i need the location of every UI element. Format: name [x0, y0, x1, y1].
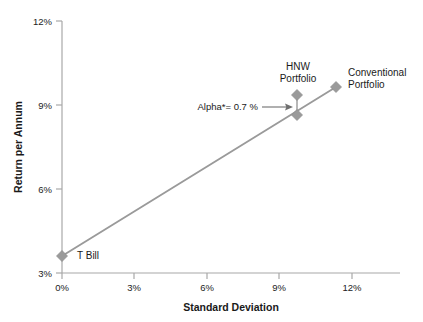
- x-tick-label-0: 0%: [55, 282, 69, 293]
- chart-svg: 12% 9% 6% 3% 0% 3% 6% 9% 12% Standard De…: [0, 0, 423, 322]
- y-axis-title: Return per Annum: [12, 101, 24, 193]
- y-tick-label-9: 9%: [38, 100, 52, 111]
- y-tick-label-12: 12%: [33, 16, 53, 27]
- data-point-label-conventional-line1: Conventional: [348, 67, 406, 78]
- x-tick-label-6: 6%: [200, 282, 214, 293]
- data-point-label-t-bill: T Bill: [77, 250, 99, 261]
- x-tick-label-12: 12%: [342, 282, 362, 293]
- data-point-marker-conventional-portfolio[interactable]: [331, 82, 342, 93]
- data-point-marker-hnw-portfolio[interactable]: [292, 90, 303, 101]
- y-tick-label-6: 6%: [38, 184, 52, 195]
- y-tick-label-3: 3%: [38, 268, 52, 279]
- x-tick-label-9: 9%: [272, 282, 286, 293]
- data-point-marker-t-bill[interactable]: [57, 251, 68, 262]
- data-point-label-conventional-line2: Portfolio: [348, 79, 385, 90]
- chart-container: 12% 9% 6% 3% 0% 3% 6% 9% 12% Standard De…: [0, 0, 423, 322]
- annotation-alpha-label: Alpha*= 0.7 %: [198, 101, 259, 112]
- data-point-label-hnw-line1: HNW: [286, 61, 310, 72]
- x-axis-title: Standard Deviation: [183, 301, 279, 313]
- data-point-marker-hnw-baseline[interactable]: [292, 110, 303, 121]
- data-point-label-hnw-line2: Portfolio: [280, 73, 317, 84]
- x-tick-label-3: 3%: [127, 282, 141, 293]
